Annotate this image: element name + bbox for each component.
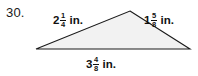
- base-unit: in.: [103, 59, 116, 71]
- base-whole: 3: [86, 59, 92, 71]
- left-side-unit: in.: [70, 15, 83, 27]
- label-base: 3 4 8 in.: [86, 56, 116, 73]
- right-side-numerator: 5: [151, 12, 157, 20]
- base-denominator: 8: [93, 65, 99, 73]
- left-side-numerator: 1: [60, 12, 66, 20]
- right-side-fraction: 5 8: [151, 12, 157, 29]
- base-fraction: 4 8: [93, 56, 99, 73]
- left-side-whole: 2: [53, 15, 59, 27]
- label-left-side: 2 1 4 in.: [53, 12, 83, 29]
- label-right-side: 1 5 8 in.: [144, 12, 174, 29]
- left-side-denominator: 4: [60, 21, 66, 29]
- triangle-figure-problem-30: 30. 2 1 4 in. 1 5 8 in. 3 4 8 in.: [0, 0, 198, 76]
- right-side-whole: 1: [144, 15, 150, 27]
- left-side-fraction: 1 4: [60, 12, 66, 29]
- right-side-unit: in.: [161, 15, 174, 27]
- right-side-denominator: 8: [151, 21, 157, 29]
- base-numerator: 4: [93, 56, 99, 64]
